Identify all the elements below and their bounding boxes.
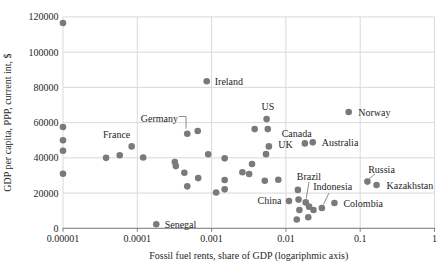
point-label: Canada [282, 128, 313, 139]
point-label: US [262, 101, 275, 112]
x-tick-label: 0.001 [200, 233, 223, 244]
data-point [60, 137, 67, 144]
x-tick-label: 0.01 [277, 233, 295, 244]
data-point-ireland [203, 78, 210, 85]
data-point [60, 124, 67, 131]
data-point [184, 183, 191, 190]
point-label: Kazakhstan [387, 180, 434, 191]
data-point [221, 177, 228, 184]
data-point-china [286, 198, 293, 205]
data-point [181, 170, 188, 177]
point-label: Germany [141, 113, 178, 124]
data-point [221, 186, 228, 193]
data-point-kazakhstan [373, 182, 380, 189]
data-point [275, 176, 282, 183]
y-tick-label: 20000 [34, 188, 59, 199]
data-point [60, 20, 67, 27]
point-label: UK [278, 139, 293, 150]
point-label: Australia [322, 137, 359, 148]
point-label: Senegal [165, 219, 197, 230]
data-point [261, 177, 268, 184]
data-point [296, 207, 303, 214]
x-tick-label: 1 [432, 233, 437, 244]
point-label: France [103, 129, 131, 140]
data-point-colombia [331, 200, 338, 207]
y-axis-title: GDP per capita, PPP, current int, $ [2, 53, 13, 191]
data-point [302, 140, 309, 147]
data-point [213, 189, 220, 196]
data-point [221, 155, 228, 162]
data-point [205, 151, 212, 158]
data-point-france [128, 143, 135, 150]
data-point-us [263, 116, 270, 123]
point-label: China [258, 195, 282, 206]
data-point [249, 161, 256, 168]
data-point [103, 155, 110, 162]
y-tick-label: 80000 [34, 82, 59, 93]
y-tick-label: 40000 [34, 152, 59, 163]
point-label: Colombia [343, 198, 383, 209]
label-leader-line [306, 182, 309, 198]
data-point-russia [364, 178, 371, 185]
data-point [239, 169, 246, 176]
point-label: Ireland [215, 76, 243, 87]
y-tick-label: 100000 [29, 47, 59, 58]
data-point-senegal [153, 221, 160, 228]
data-point [116, 152, 123, 159]
data-point-germany [184, 130, 191, 137]
data-point [246, 171, 253, 178]
data-point [194, 128, 201, 135]
point-label: Norway [358, 107, 390, 118]
data-point-australia [309, 139, 316, 146]
y-tick-label: 120000 [29, 11, 59, 22]
data-point [140, 154, 147, 161]
data-point [293, 216, 300, 223]
data-point [295, 187, 302, 194]
x-tick-label: 0.00001 [47, 233, 80, 244]
data-point [251, 126, 258, 133]
point-label: Russia [368, 164, 395, 175]
data-point [263, 151, 270, 158]
x-tick-label: 0.0001 [124, 233, 152, 244]
data-point [195, 175, 202, 182]
data-point-uk [266, 143, 273, 150]
data-point-indonesia [319, 205, 326, 212]
x-tick-label: 0.1 [354, 233, 367, 244]
data-point-canada [264, 126, 271, 133]
point-label: Indonesia [313, 181, 352, 192]
y-tick-label: 60000 [34, 117, 59, 128]
data-point [295, 196, 302, 203]
scatter-chart: 0200004000060000800001000001200000.00001… [0, 0, 447, 278]
data-point-norway [345, 109, 352, 116]
chart-svg: 0200004000060000800001000001200000.00001… [0, 0, 447, 278]
data-point [310, 207, 317, 214]
label-leader-line [323, 193, 329, 205]
x-axis-title: Fossil fuel rents, share of GDP (logarip… [149, 250, 348, 262]
data-point [173, 163, 180, 170]
data-point [305, 214, 312, 221]
data-point [60, 147, 67, 154]
data-point [60, 170, 67, 177]
